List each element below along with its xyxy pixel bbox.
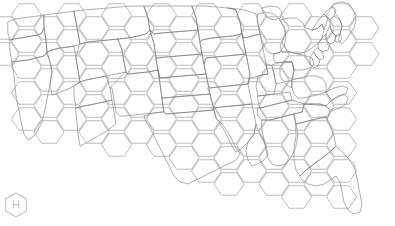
grid-dot — [366, 102, 367, 103]
grid-dot — [174, 198, 175, 199]
grid-dot — [66, 174, 67, 175]
grid-dot — [330, 30, 331, 31]
grid-dot — [210, 186, 211, 187]
grid-dot — [258, 126, 259, 127]
grid-dot — [78, 6, 79, 7]
hexagon-cell — [259, 69, 289, 92]
grid-dot — [258, 42, 259, 43]
grid-dot — [306, 222, 307, 223]
hexagon-cell — [12, 56, 42, 79]
hexagon-cell — [282, 30, 312, 53]
grid-dot — [114, 90, 115, 91]
grid-dot — [234, 42, 235, 43]
state-outline — [242, 34, 268, 84]
grid-dot — [342, 222, 343, 223]
grid-dot — [270, 150, 271, 151]
grid-dot — [306, 150, 307, 151]
grid-dot — [198, 42, 199, 43]
grid-dot — [246, 90, 247, 91]
grid-dot — [270, 126, 271, 127]
grid-dot — [30, 186, 31, 187]
grid-dot — [150, 186, 151, 187]
grid-dot — [186, 126, 187, 127]
grid-dot — [210, 222, 211, 223]
hexagon-cell — [79, 17, 109, 40]
grid-dot — [210, 90, 211, 91]
grid-dot — [378, 66, 379, 67]
grid-dot — [282, 222, 283, 223]
grid-dot — [78, 150, 79, 151]
hexagon-cell — [57, 108, 87, 131]
grid-dot — [366, 42, 367, 43]
grid-dot — [90, 174, 91, 175]
grid-dot — [138, 102, 139, 103]
grid-dot — [246, 198, 247, 199]
grid-dot — [90, 126, 91, 127]
grid-dot — [174, 66, 175, 67]
grid-dot — [354, 66, 355, 67]
grid-dot — [30, 18, 31, 19]
grid-dot — [90, 222, 91, 223]
grid-dot — [30, 222, 31, 223]
grid-dot — [342, 18, 343, 19]
state-outline — [212, 104, 256, 152]
grid-dot — [282, 114, 283, 115]
grid-dot — [354, 210, 355, 211]
hexagon-cell — [192, 82, 222, 105]
hexagon-cell — [57, 30, 87, 53]
grid-dot — [30, 66, 31, 67]
grid-dot — [66, 114, 67, 115]
grid-dot — [390, 126, 391, 127]
grid-dot — [138, 150, 139, 151]
grid-dot — [6, 162, 7, 163]
grid-dot — [6, 186, 7, 187]
grid-dot — [18, 186, 19, 187]
grid-dot — [282, 126, 283, 127]
grid-dot — [126, 210, 127, 211]
grid-dot — [18, 90, 19, 91]
grid-dot — [138, 186, 139, 187]
grid-dot — [222, 6, 223, 7]
grid-dot — [114, 6, 115, 7]
hexagon-cell — [282, 82, 312, 105]
grid-dot — [234, 174, 235, 175]
grid-dot — [318, 150, 319, 151]
grid-dot — [198, 66, 199, 67]
grid-dot — [102, 222, 103, 223]
grid-dot — [198, 150, 199, 151]
grid-dot — [102, 174, 103, 175]
grid-dot — [54, 90, 55, 91]
grid-dot — [342, 102, 343, 103]
grid-dot — [126, 114, 127, 115]
background-dot-grid — [6, 6, 391, 223]
grid-dot — [222, 42, 223, 43]
grid-dot — [78, 210, 79, 211]
hexagon-cell — [169, 69, 199, 92]
grid-dot — [174, 30, 175, 31]
grid-dot — [198, 90, 199, 91]
grid-dot — [390, 210, 391, 211]
grid-dot — [126, 198, 127, 199]
grid-dot — [186, 186, 187, 187]
grid-dot — [354, 138, 355, 139]
grid-dot — [90, 54, 91, 55]
grid-dot — [246, 138, 247, 139]
grid-dot — [90, 210, 91, 211]
grid-dot — [378, 54, 379, 55]
grid-dot — [210, 210, 211, 211]
grid-dot — [234, 30, 235, 31]
grid-dot — [282, 186, 283, 187]
grid-dot — [30, 90, 31, 91]
grid-dot — [378, 42, 379, 43]
grid-dot — [42, 114, 43, 115]
grid-dot — [246, 114, 247, 115]
grid-dot — [90, 18, 91, 19]
grid-dot — [366, 114, 367, 115]
grid-dot — [318, 138, 319, 139]
grid-dot — [342, 6, 343, 7]
grid-dot — [6, 126, 7, 127]
grid-dot — [186, 138, 187, 139]
hexagon-cell — [12, 30, 42, 53]
grid-dot — [318, 6, 319, 7]
state-outline — [312, 14, 328, 30]
